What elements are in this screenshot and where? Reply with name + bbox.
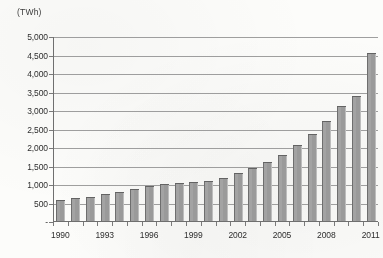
bar-top-edge	[293, 145, 302, 146]
bar	[352, 96, 361, 222]
x-tick-mark	[53, 222, 54, 226]
bar	[56, 200, 65, 222]
x-tick-label: 2005	[273, 230, 292, 240]
bar	[71, 198, 80, 222]
bar	[189, 182, 198, 222]
bar	[101, 194, 110, 222]
y-tick-label: 500	[4, 199, 48, 209]
bar-top-edge	[234, 173, 243, 174]
bar	[219, 178, 228, 222]
bar-top-edge	[86, 197, 95, 198]
x-axis-tick-marks	[53, 222, 378, 228]
bar	[367, 53, 376, 222]
x-tick-mark	[275, 222, 276, 226]
bar	[130, 189, 139, 222]
x-tick-mark	[68, 222, 69, 226]
bar-top-edge	[101, 194, 110, 195]
y-tick-label: 5,000	[4, 32, 48, 42]
bar	[234, 173, 243, 222]
y-tick-label: 3,500	[4, 88, 48, 98]
x-tick-mark	[304, 222, 305, 226]
x-tick-mark	[112, 222, 113, 226]
x-tick-mark	[97, 222, 98, 226]
bar-top-edge	[367, 53, 376, 54]
x-tick-mark	[83, 222, 84, 226]
bar-top-edge	[204, 181, 213, 182]
bar	[293, 145, 302, 222]
bar-top-edge	[145, 186, 154, 187]
bar-top-edge	[352, 96, 361, 97]
y-tick-label: 4,000	[4, 69, 48, 79]
bar-top-edge	[115, 192, 124, 193]
bar	[322, 121, 331, 222]
bar	[175, 183, 184, 222]
x-tick-label: 2008	[317, 230, 336, 240]
x-tick-mark	[363, 222, 364, 226]
x-tick-mark	[245, 222, 246, 226]
bar-chart: (TWh) 5,0004,5004,0003,5003,0002,5002,00…	[0, 0, 383, 258]
x-tick-mark	[319, 222, 320, 226]
bar	[145, 186, 154, 222]
x-tick-label: 2002	[228, 230, 247, 240]
bar-top-edge	[130, 189, 139, 190]
x-tick-mark	[348, 222, 349, 226]
x-tick-label: 1990	[51, 230, 70, 240]
bar	[248, 168, 257, 222]
y-tick-label: 1,000	[4, 180, 48, 190]
x-tick-mark	[142, 222, 143, 226]
bar-top-edge	[248, 168, 257, 169]
x-tick-label: 1999	[184, 230, 203, 240]
x-tick-mark	[334, 222, 335, 226]
x-tick-mark	[127, 222, 128, 226]
x-tick-mark	[171, 222, 172, 226]
x-tick-mark	[201, 222, 202, 226]
bar	[160, 184, 169, 222]
plot-area	[53, 37, 378, 222]
bar	[263, 162, 272, 222]
bar-top-edge	[219, 178, 228, 179]
bar	[308, 134, 317, 222]
x-tick-mark	[260, 222, 261, 226]
bar-series	[53, 37, 378, 222]
x-tick-mark	[230, 222, 231, 226]
x-tick-mark	[156, 222, 157, 226]
bar-top-edge	[189, 182, 198, 183]
x-tick-mark	[186, 222, 187, 226]
bar-top-edge	[71, 198, 80, 199]
y-axis-tick-labels: 5,0004,5004,0003,5003,0002,5002,0001,500…	[0, 37, 48, 222]
y-tick-label: 2,500	[4, 125, 48, 135]
x-tick-mark	[289, 222, 290, 226]
x-axis-tick-labels: 19901993199619992002200520082011	[53, 230, 378, 248]
bar-top-edge	[322, 121, 331, 122]
x-tick-label: 2011	[362, 230, 380, 240]
bar	[278, 155, 287, 222]
bar-top-edge	[278, 155, 287, 156]
x-tick-label: 1996	[140, 230, 159, 240]
x-tick-label: 1993	[95, 230, 114, 240]
y-tick-label: 4,500	[4, 51, 48, 61]
x-tick-mark	[216, 222, 217, 226]
y-axis-unit-label: (TWh)	[17, 7, 42, 17]
bar	[337, 106, 346, 222]
y-tick-label: 3,000	[4, 106, 48, 116]
bar-top-edge	[160, 184, 169, 185]
y-tick-label: 2,000	[4, 143, 48, 153]
x-tick-mark	[378, 222, 379, 226]
bar-top-edge	[175, 183, 184, 184]
y-tick-label: 1,500	[4, 162, 48, 172]
bar	[204, 181, 213, 222]
bar-top-edge	[56, 200, 65, 201]
bar-top-edge	[263, 162, 272, 163]
bar	[115, 192, 124, 222]
bar	[86, 197, 95, 222]
bar-top-edge	[337, 106, 346, 107]
y-tick-label: -	[4, 217, 48, 227]
bar-top-edge	[308, 134, 317, 135]
